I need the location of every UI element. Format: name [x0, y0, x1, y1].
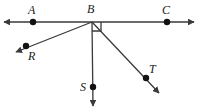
geometry-figure: ABCRST	[0, 0, 198, 109]
point-label-T: T	[149, 63, 156, 75]
rays-group	[16, 22, 159, 106]
ray-BS	[92, 22, 93, 106]
point-dots-group	[23, 19, 170, 90]
point-label-R: R	[28, 50, 35, 62]
point-dot-C	[164, 19, 170, 25]
point-label-S: S	[80, 81, 86, 93]
point-dot-A	[30, 19, 36, 25]
point-label-A: A	[28, 4, 35, 16]
point-label-C: C	[162, 4, 170, 16]
point-dot-S	[90, 84, 96, 90]
point-label-B: B	[87, 3, 94, 15]
ray-BT	[92, 22, 159, 93]
